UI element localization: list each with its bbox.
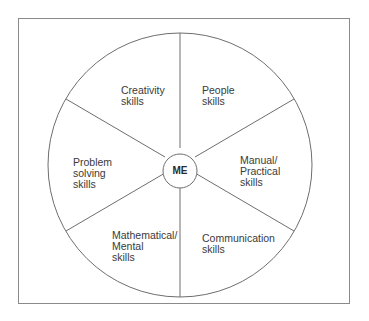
spoke-upper-left bbox=[66, 99, 165, 157]
center-label: ME bbox=[163, 165, 197, 176]
segment-label-creativity: Creativity skills bbox=[121, 85, 165, 107]
segment-label-mathematical: Mathematical/ Mental skills bbox=[112, 230, 177, 263]
segment-label-manual: Manual/ Practical skills bbox=[240, 155, 280, 188]
skills-wheel bbox=[0, 0, 369, 321]
segment-label-people: People skills bbox=[202, 85, 235, 107]
spoke-upper-right bbox=[195, 99, 294, 157]
segment-label-communication: Communication skills bbox=[202, 233, 275, 255]
segment-label-problem-solving: Problem solving skills bbox=[73, 157, 112, 190]
